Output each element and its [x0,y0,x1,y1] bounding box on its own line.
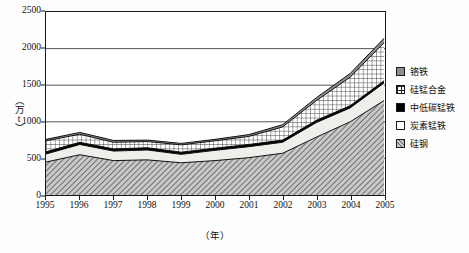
legend-item-low-c-mn-iron[interactable]: 中低碳锰铁 [396,98,468,116]
y-tick-label-500: 500 [7,154,41,164]
y-tick-label-2500: 2500 [7,6,41,16]
legend-label-chrome-iron: 铬铁 [410,65,428,78]
x-tick-label-2002: 2002 [274,200,293,210]
legend-item-chrome-iron[interactable]: 铬铁 [396,62,468,80]
x-tick-label-1998: 1998 [138,200,157,210]
stacked-area-plot [46,12,385,195]
diagonal-hatch-swatch-icon [396,139,405,148]
white-solid-swatch-icon [396,121,405,130]
x-tick-label-2000: 2000 [206,200,225,210]
legend-label-carbon-mn-iron: 炭素锰铁 [410,119,446,132]
x-tick-label-2003: 2003 [308,200,327,210]
black-solid-swatch-icon [396,103,405,112]
x-tick-label-2005: 2005 [376,200,395,210]
chart-page: （万t） 2500 2000 1500 1000 500 0 [0,0,469,253]
x-tick-label-1995: 1995 [36,200,55,210]
legend-item-carbon-mn-iron[interactable]: 炭素锰铁 [396,116,468,134]
y-tick-label-2000: 2000 [7,43,41,53]
area-bands [46,38,384,195]
y-tick-label-1500: 1500 [7,80,41,90]
x-tick-label-2004: 2004 [342,200,361,210]
gray-solid-swatch-icon [396,67,405,76]
legend-item-si-mn-alloy[interactable]: 硅锰合金 [396,80,468,98]
x-tick-label-1999: 1999 [172,200,191,210]
legend-item-silicon-steel[interactable]: 硅钢 [396,134,468,152]
legend-label-silicon-steel: 硅钢 [410,137,428,150]
grid-hatch-swatch-icon [396,85,405,94]
x-axis-title: （年） [200,228,230,242]
x-tick-label-2001: 2001 [240,200,259,210]
x-tick-label-1997: 1997 [104,200,123,210]
legend-label-si-mn-alloy: 硅锰合金 [410,83,446,96]
legend: 铬铁 硅锰合金 中低碳锰铁 炭素锰铁 硅钢 [396,62,468,152]
legend-label-low-c-mn-iron: 中低碳锰铁 [410,101,455,114]
y-axis: （万t） 2500 2000 1500 1000 500 0 [0,0,41,253]
y-tick-label-1000: 1000 [7,117,41,127]
plot-area [45,11,386,196]
x-tick-label-1996: 1996 [70,200,89,210]
